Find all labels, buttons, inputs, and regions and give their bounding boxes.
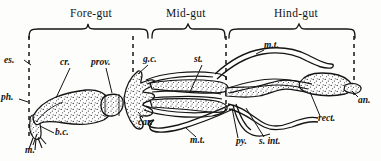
- leader-bc: [40, 126, 54, 133]
- part-label-rect: rect.: [318, 114, 335, 124]
- part-label-bc: b.c.: [55, 128, 69, 138]
- part-label-an: an.: [358, 96, 370, 106]
- part-label-ph: ph.: [1, 93, 13, 103]
- rectum-shape: [299, 73, 351, 96]
- part-label-cr: cr.: [60, 58, 70, 68]
- part-label-es: es.: [4, 56, 14, 66]
- part-label-prov: prov.: [91, 58, 110, 68]
- part-label-mt-upper: m.t.: [264, 41, 279, 51]
- leader-ph: [19, 99, 28, 102]
- part-label-py: py.: [236, 137, 247, 147]
- region-braces: [29, 24, 355, 38]
- brace-fore-gut: [29, 24, 148, 38]
- region-label-mid-gut: Mid-gut: [166, 8, 206, 20]
- leader-prov: [106, 68, 112, 93]
- gut-anatomy-figure: Fore-gut Mid-gut Hind-gut es. ph. m. b.c…: [0, 0, 381, 161]
- part-label-mt-lower: m.t.: [190, 136, 205, 146]
- oesophagus-crop-shape: [33, 90, 112, 125]
- leader-es: [24, 60, 31, 65]
- leader-gc: [138, 65, 148, 74]
- proventriculus-shape: [101, 94, 123, 116]
- part-label-s-int: s. int.: [259, 137, 280, 147]
- malpighian-tubule-upper-1: [215, 48, 331, 74]
- part-label-m: m.: [25, 146, 35, 156]
- region-label-hind-gut: Hind-gut: [274, 8, 318, 20]
- pylorus-small-intestine-shape: [226, 80, 309, 97]
- part-label-st: st.: [194, 55, 203, 65]
- region-label-fore-gut: Fore-gut: [70, 8, 112, 20]
- part-label-car: car.: [138, 118, 153, 128]
- brace-hind-gut: [229, 24, 355, 38]
- part-label-gc: g.c.: [143, 55, 157, 65]
- brace-mid-gut: [152, 24, 225, 38]
